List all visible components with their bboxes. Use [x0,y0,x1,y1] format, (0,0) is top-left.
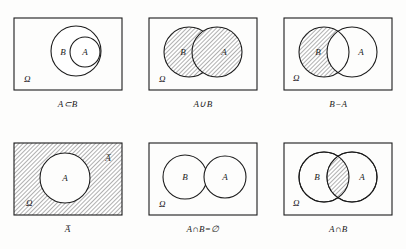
circle-a-shaded [192,27,242,77]
label-a: A [221,172,228,182]
label-omega: Ω [293,198,300,208]
label-a: A [220,47,227,57]
panel-intersection-canvas: B A Ω [280,139,396,219]
panel-difference-canvas: B A Ω [280,14,396,94]
panel-difference: B A Ω B−A [271,0,406,125]
label-b: B [182,172,188,182]
panel-intersection-caption: A∩B [329,225,347,234]
label-b: B [315,172,321,182]
panel-complement-caption: A̅ [65,225,71,234]
panel-complement: A A̅ Ω A̅ [0,125,135,249]
panel-difference-caption: B−A [329,100,347,109]
label-b: B [60,47,66,57]
label-a: A [359,172,366,182]
panel-disjoint-caption: A∩B=∅ [186,225,219,234]
label-omega: Ω [159,199,166,209]
panel-complement-canvas: A A̅ Ω [10,139,126,219]
label-b: B [316,47,322,57]
label-a: A [358,47,365,57]
panel-grid: B A Ω A⊂B B A Ω A∪B [0,0,406,249]
panel-union-canvas: B A Ω [145,14,261,94]
label-omega: Ω [26,198,33,208]
label-b: B [180,47,186,57]
label-a-complement-corner: A̅ [104,153,111,163]
label-a: A [61,173,68,183]
panel-disjoint: B A Ω A∩B=∅ [135,125,270,249]
label-omega: Ω [159,74,166,84]
panel-intersection: B A Ω A∩B [271,125,406,249]
venn-diagram-figure-sheet: B A Ω A⊂B B A Ω A∪B [0,0,406,249]
label-omega: Ω [293,73,300,83]
label-a: A [81,47,88,57]
panel-subset-caption: A⊂B [58,100,78,109]
panel-subset-canvas: B A Ω [10,14,126,94]
panel-union-caption: A∪B [194,100,213,109]
panel-union: B A Ω A∪B [135,0,270,125]
label-omega: Ω [24,74,31,84]
panel-disjoint-canvas: B A Ω [145,139,261,219]
panel-subset: B A Ω A⊂B [0,0,135,125]
